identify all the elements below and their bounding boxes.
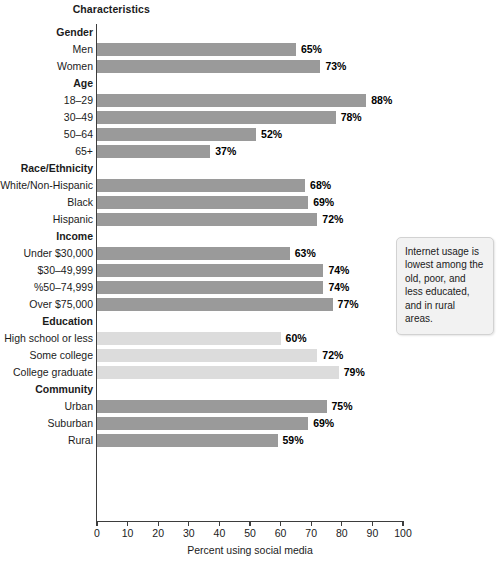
bar-value-label: 88% (371, 92, 392, 109)
bar-category-label: High school or less (0, 330, 93, 347)
group-heading-label: Education (0, 313, 93, 330)
bar (97, 179, 305, 192)
bar-value-label: 74% (328, 262, 349, 279)
bar-value-label: 79% (344, 364, 365, 381)
callout-note: Internet usage is lowest among the old, … (396, 237, 494, 335)
bar-category-label: $30–49,999 (0, 262, 93, 279)
bar-row: Black69% (0, 194, 504, 211)
x-axis-tick (219, 521, 220, 526)
bar-category-label: Suburban (0, 415, 93, 432)
x-axis-tick (249, 521, 250, 526)
bar-row: 65+37% (0, 143, 504, 160)
y-axis-line (96, 24, 97, 522)
bar-category-label: Hispanic (0, 211, 93, 228)
social-media-usage-bar-chart: Characteristics GenderMen65%Women73%Age1… (0, 0, 504, 562)
group-heading-row: Gender (0, 24, 504, 41)
bar (97, 366, 339, 379)
bar-category-label: Men (0, 41, 93, 58)
bar (97, 264, 323, 277)
bar (97, 111, 336, 124)
x-axis-tick (311, 521, 312, 526)
bar-category-label: Urban (0, 398, 93, 415)
bar-value-label: 59% (283, 432, 304, 449)
bar-category-label: College graduate (0, 364, 93, 381)
x-axis-tick (158, 521, 159, 526)
bar-value-label: 72% (322, 347, 343, 364)
bar-row: 18–2988% (0, 92, 504, 109)
bar-category-label: Rural (0, 432, 93, 449)
bar-row: White/Non-Hispanic68% (0, 177, 504, 194)
bar-category-label: White/Non-Hispanic (0, 177, 93, 194)
bar-row: Urban75% (0, 398, 504, 415)
bar-value-label: 69% (313, 415, 334, 432)
x-axis-tick (127, 521, 128, 526)
bar-row: 50–6452% (0, 126, 504, 143)
bar (97, 349, 317, 362)
bar-value-label: 63% (295, 245, 316, 262)
bar-category-label: Some college (0, 347, 93, 364)
bar-value-label: 78% (341, 109, 362, 126)
bar-category-label: Under $30,000 (0, 245, 93, 262)
bar (97, 417, 308, 430)
group-heading-row: Community (0, 381, 504, 398)
bar-category-label: 18–29 (0, 92, 93, 109)
bar (97, 196, 308, 209)
bar (97, 298, 333, 311)
x-axis-tick (341, 521, 342, 526)
x-axis-tick (402, 521, 403, 526)
bar-value-label: 69% (313, 194, 334, 211)
bar (97, 43, 296, 56)
bar-value-label: 52% (261, 126, 282, 143)
bar (97, 145, 210, 158)
bar (97, 332, 281, 345)
x-axis-tick (280, 521, 281, 526)
bar (97, 128, 256, 141)
bar-category-label: Black (0, 194, 93, 211)
bar-category-label: %50–74,999 (0, 279, 93, 296)
bar-value-label: 60% (286, 330, 307, 347)
group-heading-label: Community (0, 381, 93, 398)
group-heading-label: Age (0, 75, 93, 92)
page-title: Characteristics (0, 3, 150, 15)
bar-value-label: 74% (328, 279, 349, 296)
x-axis-tick-label: 100 (383, 527, 423, 539)
bar-value-label: 75% (332, 398, 353, 415)
bar-row: 30–4978% (0, 109, 504, 126)
bar-value-label: 68% (310, 177, 331, 194)
bar-row: Women73% (0, 58, 504, 75)
bar (97, 281, 323, 294)
bar (97, 400, 327, 413)
bar-row: College graduate79% (0, 364, 504, 381)
x-axis-label: Percent using social media (96, 544, 404, 556)
bar-row: Suburban69% (0, 415, 504, 432)
x-axis-tick (372, 521, 373, 526)
bar-value-label: 73% (325, 58, 346, 75)
bar-value-label: 37% (215, 143, 236, 160)
bar (97, 213, 317, 226)
bar (97, 94, 366, 107)
group-heading-label: Race/Ethnicity (0, 160, 93, 177)
bar-category-label: Over $75,000 (0, 296, 93, 313)
bar-category-label: 50–64 (0, 126, 93, 143)
group-heading-row: Race/Ethnicity (0, 160, 504, 177)
bar-row: Rural59% (0, 432, 504, 449)
bar-row: Some college72% (0, 347, 504, 364)
bar-row: Men65% (0, 41, 504, 58)
bar (97, 60, 320, 73)
bar-category-label: 30–49 (0, 109, 93, 126)
bar-row: Hispanic72% (0, 211, 504, 228)
group-heading-label: Gender (0, 24, 93, 41)
bar-category-label: 65+ (0, 143, 93, 160)
bar-value-label: 65% (301, 41, 322, 58)
group-heading-label: Income (0, 228, 93, 245)
x-axis-tick (188, 521, 189, 526)
bar (97, 434, 278, 447)
x-axis-tick (96, 521, 97, 526)
bar (97, 247, 290, 260)
group-heading-row: Age (0, 75, 504, 92)
bar-category-label: Women (0, 58, 93, 75)
bar-value-label: 77% (338, 296, 359, 313)
bar-value-label: 72% (322, 211, 343, 228)
